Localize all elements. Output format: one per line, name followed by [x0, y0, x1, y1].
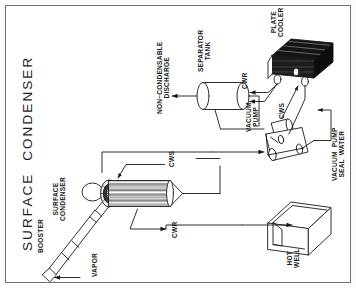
- label-surface-condenser: SURFACE CONDENSER: [52, 177, 67, 221]
- label-vacuum-pump-seal-water: VACUUM PUMP SEAL WATER: [331, 127, 346, 181]
- diagram-canvas: [6, 6, 351, 283]
- cwr-condenser-line[interactable]: [130, 209, 166, 229]
- label-plate-cooler: PLATE COOLER: [270, 8, 285, 37]
- pump-suction-line: [213, 129, 265, 152]
- label-vacuum-pump: VACUUM PUMP: [245, 102, 260, 132]
- separator-leader-line: [215, 110, 221, 129]
- condenser-vent-line: [102, 152, 213, 173]
- cws-condenser-line[interactable]: [118, 165, 165, 179]
- label-separator-tank: SEPARATOR TANK: [197, 30, 212, 72]
- label-booster: BOOSTER: [37, 219, 44, 253]
- label-cws-condenser: CWS: [168, 151, 175, 167]
- surface-condenser-body: [82, 180, 183, 207]
- condenser-to-separator-line: [183, 159, 221, 194]
- label-hot-well: HOT WELL: [286, 249, 301, 268]
- diagram-border: SURFACE CONDENSER BOOSTER VAPOR SURFACE …: [5, 5, 351, 283]
- cwr-cooler-line[interactable]: [250, 84, 278, 102]
- page-title: SURFACE CONDENSER: [20, 56, 35, 251]
- hot-well-body: [268, 202, 331, 255]
- label-non-condensable-discharge: NON−CONDENSABLE DISCHARGE: [156, 42, 171, 114]
- label-cwr-condenser: CWR: [171, 222, 178, 238]
- plate-cooler-body: [268, 39, 333, 86]
- label-cwr-cooler: CWR: [241, 73, 248, 89]
- vacuum-pump-body: [266, 118, 308, 161]
- diagram-frame: SURFACE CONDENSER BOOSTER VAPOR SURFACE …: [0, 0, 356, 288]
- label-cws-cooler: CWS: [278, 103, 285, 119]
- label-vapor: VAPOR: [91, 253, 98, 277]
